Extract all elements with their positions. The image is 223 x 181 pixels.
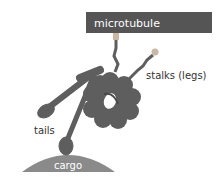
stalk-tip-1 — [113, 33, 119, 40]
dynein-diagram: microtubule cargo stalks (legs) tai — [0, 0, 223, 181]
microtubule-label: microtubule — [94, 17, 160, 30]
stalks-label: stalks (legs) — [146, 70, 207, 81]
motor-head-ring — [83, 72, 141, 129]
cargo: cargo — [22, 155, 115, 172]
cargo-label: cargo — [54, 160, 82, 171]
tails-label: tails — [34, 125, 55, 136]
stalk-tip-2 — [152, 49, 159, 56]
microtubule: microtubule — [86, 12, 212, 33]
